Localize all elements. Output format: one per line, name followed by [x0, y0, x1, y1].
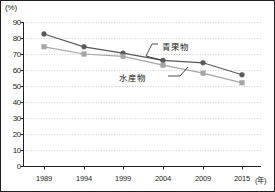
axes-group: [21, 22, 262, 170]
data-point-suisan-1989: [42, 45, 46, 49]
data-point-seika-2009: [201, 60, 206, 65]
series-lines-group: [42, 32, 245, 85]
data-point-suisan-2015: [240, 81, 244, 85]
data-point-suisan-1994: [82, 52, 86, 56]
data-point-seika-2004: [161, 58, 166, 63]
data-point-seika-1994: [82, 44, 87, 49]
annotation-leader-lines: [146, 44, 188, 76]
data-point-seika-2015: [240, 72, 245, 77]
chart-plot-area: [0, 0, 275, 192]
data-point-suisan-1999: [121, 54, 125, 58]
data-point-seika-1989: [42, 32, 47, 37]
gridlines-group: [23, 23, 261, 151]
data-point-suisan-2004: [161, 63, 165, 67]
chart-container: (%) 90 80 70 60 50 40 30 20 10 0 1989 19…: [0, 0, 275, 192]
series-line-suisan: [44, 47, 242, 83]
data-point-suisan-2009: [201, 71, 205, 75]
